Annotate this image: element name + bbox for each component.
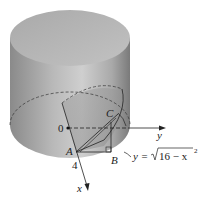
equation-radicand: 16 − x bbox=[159, 150, 188, 162]
y-axis-label: y bbox=[156, 129, 162, 141]
equation: y = 16 − x 2 bbox=[132, 147, 198, 162]
point-a-label: A bbox=[65, 145, 73, 157]
x-axis-label: x bbox=[76, 182, 82, 194]
origin-point bbox=[66, 126, 69, 129]
equation-prefix: y = bbox=[132, 150, 148, 162]
cylinder-wedge-diagram: 0 A B C 4 x y y = 16 − x 2 bbox=[0, 0, 207, 203]
point-c-label: C bbox=[106, 107, 114, 119]
x-axis-arrow bbox=[85, 183, 90, 191]
radius-label: 4 bbox=[72, 159, 78, 171]
point-b-label: B bbox=[111, 154, 118, 166]
equation-exponent: 2 bbox=[194, 147, 198, 155]
origin-label: 0 bbox=[58, 122, 64, 134]
cylinder-top bbox=[10, 10, 130, 66]
equation-pointer bbox=[124, 152, 131, 157]
